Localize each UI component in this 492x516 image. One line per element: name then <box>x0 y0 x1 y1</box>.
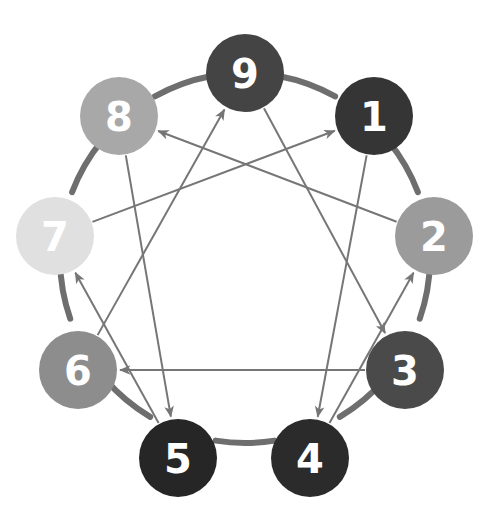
node-8-label: 8 <box>105 94 133 140</box>
node-1-label: 1 <box>360 94 388 140</box>
enneagram-canvas: 912345678 <box>0 0 492 516</box>
node-9[interactable]: 9 <box>206 34 284 112</box>
node-6[interactable]: 6 <box>39 331 117 409</box>
node-7-label: 7 <box>41 214 69 260</box>
ring-arc-9-1 <box>280 76 335 96</box>
node-5-label: 5 <box>164 436 192 482</box>
node-3-label: 3 <box>391 348 419 394</box>
node-2[interactable]: 2 <box>395 197 473 275</box>
enneagram-diagram: 912345678 <box>0 0 492 516</box>
node-7[interactable]: 7 <box>16 197 94 275</box>
ring-arc-4-5 <box>216 441 275 443</box>
node-9-label: 9 <box>231 51 259 97</box>
node-4[interactable]: 4 <box>271 419 349 497</box>
node-2-label: 2 <box>420 214 448 260</box>
node-1[interactable]: 1 <box>335 77 413 155</box>
node-3[interactable]: 3 <box>366 331 444 409</box>
node-8[interactable]: 8 <box>80 77 158 155</box>
enneagram-connection-lines <box>75 108 413 423</box>
node-6-label: 6 <box>64 348 92 394</box>
node-4-label: 4 <box>296 436 324 482</box>
ring-arc-8-9 <box>155 76 210 96</box>
enneagram-nodes: 912345678 <box>16 34 473 497</box>
node-5[interactable]: 5 <box>139 419 217 497</box>
ring-arc-7-8 <box>72 141 101 192</box>
